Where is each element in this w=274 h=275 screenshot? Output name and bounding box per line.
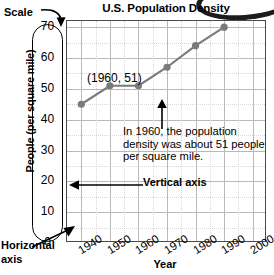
chart-title: U.S. Population Density bbox=[66, 2, 266, 14]
data-point-marker bbox=[221, 24, 228, 31]
point-coordinate-label: (1960, 51) bbox=[87, 71, 142, 85]
series-polyline bbox=[81, 27, 224, 104]
data-point-marker bbox=[78, 101, 85, 108]
scale-callout-label: Scale bbox=[4, 6, 33, 18]
x-axis-title: Year bbox=[100, 258, 230, 270]
y-tick-label: 20 bbox=[32, 174, 63, 186]
y-tick-label: 10 bbox=[32, 205, 63, 217]
y-tick-label: 50 bbox=[32, 82, 63, 94]
scale-arrow-icon bbox=[40, 6, 68, 28]
plot-area: (1960, 51) In 1960, the population densi… bbox=[66, 20, 266, 242]
vertical-axis-callout-label: Vertical axis bbox=[143, 176, 207, 188]
horizontal-axis-arrow-icon bbox=[30, 222, 76, 248]
callout-arrow-icon bbox=[155, 99, 169, 129]
horizontal-axis-line2: axis bbox=[1, 253, 22, 265]
y-tick-label: 40 bbox=[32, 113, 63, 125]
data-point-marker bbox=[192, 42, 199, 49]
callout-note-text: In 1960, the population density was abou… bbox=[123, 125, 265, 163]
vertical-axis-arrow-icon bbox=[69, 178, 145, 192]
data-point-marker bbox=[163, 64, 170, 71]
y-tick-label: 30 bbox=[32, 144, 63, 156]
y-tick-label: 60 bbox=[32, 51, 63, 63]
